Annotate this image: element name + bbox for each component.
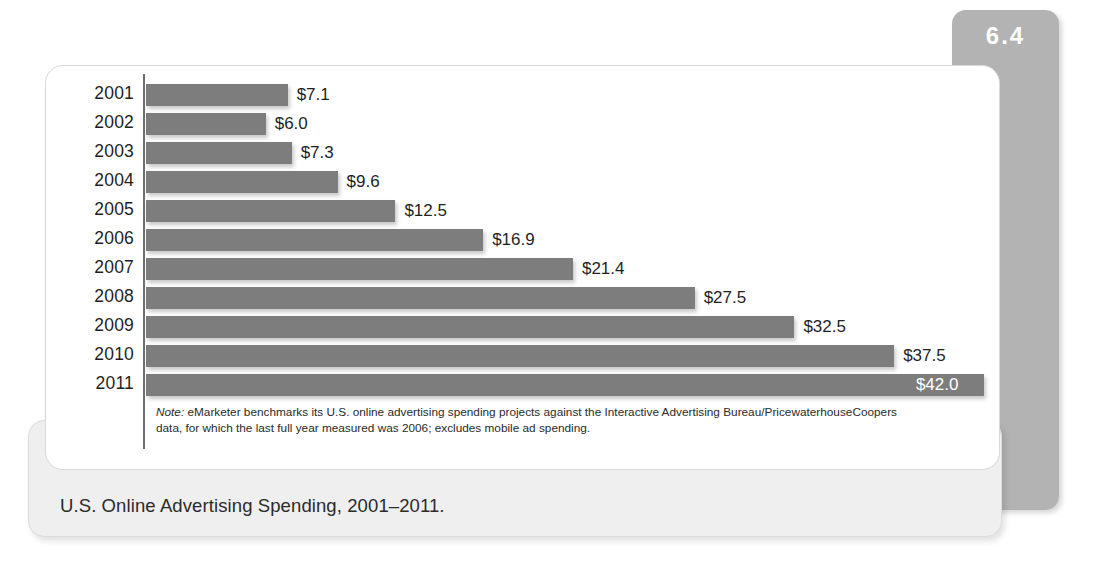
bar <box>146 142 292 164</box>
bar-value-label: $7.3 <box>301 142 334 164</box>
bar-row: 2006$16.9 <box>46 226 1001 255</box>
bar <box>146 84 288 106</box>
category-label: 2004 <box>46 170 134 191</box>
bar <box>146 171 338 193</box>
bar-row: 2001$7.1 <box>46 81 1001 110</box>
category-label: 2001 <box>46 83 134 104</box>
category-label: 2003 <box>46 141 134 162</box>
category-label: 2006 <box>46 228 134 249</box>
bar <box>146 258 573 280</box>
bar-row: 2002$6.0 <box>46 110 1001 139</box>
category-label: 2010 <box>46 344 134 365</box>
bar <box>146 345 894 367</box>
bar <box>146 287 695 309</box>
bar-row: 2007$21.4 <box>46 255 1001 284</box>
bar-row: 2008$27.5 <box>46 284 1001 313</box>
bar-value-label: $32.5 <box>803 316 846 338</box>
bar-row: 2004$9.6 <box>46 168 1001 197</box>
category-label: 2009 <box>46 315 134 336</box>
bar-value-label: $7.1 <box>297 84 330 106</box>
bar-value-label: $6.0 <box>275 113 308 135</box>
bar-value-label: $9.6 <box>347 171 380 193</box>
bar-row: 2009$32.5 <box>46 313 1001 342</box>
category-label: 2002 <box>46 112 134 133</box>
category-label: 2007 <box>46 257 134 278</box>
figure-number-label: 6.4 <box>952 22 1059 50</box>
chart-card: 2001$7.12002$6.02003$7.32004$9.62005$12.… <box>45 65 1000 470</box>
bar-row: 2003$7.3 <box>46 139 1001 168</box>
bar-row: 2010$37.5 <box>46 342 1001 371</box>
bar-value-label: $21.4 <box>582 258 625 280</box>
bar-value-label: $16.9 <box>492 229 535 251</box>
category-label: 2005 <box>46 199 134 220</box>
figure-caption: U.S. Online Advertising Spending, 2001–2… <box>60 495 445 517</box>
category-label: 2011 <box>46 373 134 394</box>
category-label: 2008 <box>46 286 134 307</box>
bar <box>146 316 794 338</box>
note-prefix-label: Note: <box>156 405 184 419</box>
chart-note: Note: eMarketer benchmarks its U.S. onli… <box>156 404 916 436</box>
bar-value-label: $27.5 <box>704 287 747 309</box>
bar <box>146 200 395 222</box>
bar <box>146 229 483 251</box>
bar-row: 2005$12.5 <box>46 197 1001 226</box>
bar <box>146 374 984 396</box>
bar-value-label: $37.5 <box>903 345 946 367</box>
bar-value-label: $12.5 <box>404 200 447 222</box>
bar-value-label: $42.0 <box>916 374 959 396</box>
note-body-text: eMarketer benchmarks its U.S. online adv… <box>156 405 897 435</box>
bar <box>146 113 266 135</box>
bar-row: 2011$42.0 <box>46 371 1001 400</box>
